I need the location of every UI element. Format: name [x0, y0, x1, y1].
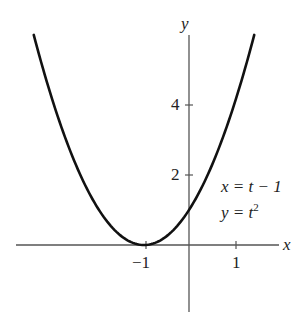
equation-y: y = t2 [221, 202, 259, 221]
x-tick-label-neg1: −1 [132, 254, 150, 271]
equation-x: x = t − 1 [221, 178, 282, 195]
equation-y-base: y = t [221, 203, 253, 222]
equation-y-exponent: 2 [253, 201, 259, 213]
y-tick-label-4: 4 [171, 96, 180, 113]
x-tick-label-1: 1 [232, 254, 241, 271]
plot-area [0, 0, 303, 318]
x-axis-label: x [283, 236, 291, 253]
y-axis-label: y [181, 15, 189, 32]
y-tick-label-2: 2 [171, 166, 180, 183]
